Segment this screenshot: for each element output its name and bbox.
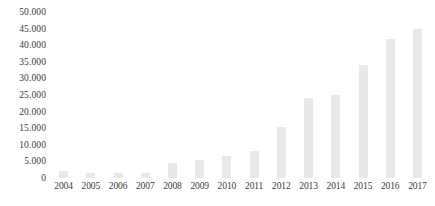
bar-2013[interactable] (304, 98, 313, 178)
bar-2012[interactable] (277, 127, 286, 178)
bar-slot (186, 12, 213, 178)
x-axis-tick-label: 2017 (404, 180, 431, 200)
x-axis-tick-label: 2014 (322, 180, 349, 200)
bar-slot (213, 12, 240, 178)
bar-slot (241, 12, 268, 178)
bar-2010[interactable] (222, 156, 231, 178)
x-axis-tick-label: 2010 (213, 180, 240, 200)
bar-slot (377, 12, 404, 178)
bar-2006[interactable] (114, 173, 123, 178)
bar-slot (104, 12, 131, 178)
bar-2011[interactable] (250, 151, 259, 178)
x-axis-tick-label: 2013 (295, 180, 322, 200)
y-axis: 50.00045.00040.00035.00030.00025.00020.0… (0, 0, 46, 206)
y-axis-tick-label: 35.000 (0, 57, 46, 67)
y-axis-tick-label: 0 (0, 173, 46, 183)
x-axis-tick-label: 2012 (268, 180, 295, 200)
bar-slot (77, 12, 104, 178)
x-axis-tick-label: 2007 (132, 180, 159, 200)
bars-layer (50, 12, 431, 178)
bar-2009[interactable] (195, 160, 204, 178)
bar-2015[interactable] (359, 65, 368, 178)
bar-slot (349, 12, 376, 178)
y-axis-tick-label: 50.000 (0, 7, 46, 17)
bar-chart: 50.00045.00040.00035.00030.00025.00020.0… (0, 0, 435, 206)
y-axis-tick-label: 5.000 (0, 156, 46, 166)
bar-slot (268, 12, 295, 178)
bar-2017[interactable] (413, 29, 422, 178)
bar-2007[interactable] (141, 173, 150, 178)
x-axis-tick-label: 2015 (349, 180, 376, 200)
bar-2005[interactable] (86, 173, 95, 178)
x-axis-tick-label: 2016 (377, 180, 404, 200)
y-axis-tick-label: 10.000 (0, 140, 46, 150)
x-axis-tick-label: 2004 (50, 180, 77, 200)
y-axis-tick-label: 25.000 (0, 90, 46, 100)
x-axis-tick-label: 2006 (104, 180, 131, 200)
bar-slot (132, 12, 159, 178)
bar-slot (159, 12, 186, 178)
y-axis-tick-label: 15.000 (0, 123, 46, 133)
x-axis-tick-label: 2009 (186, 180, 213, 200)
x-axis-tick-label: 2011 (241, 180, 268, 200)
bar-slot (295, 12, 322, 178)
bar-slot (322, 12, 349, 178)
plot-area (50, 12, 431, 178)
y-axis-tick-label: 30.000 (0, 73, 46, 83)
bar-2004[interactable] (59, 171, 68, 178)
bar-2008[interactable] (168, 163, 177, 178)
y-axis-tick-label: 45.000 (0, 24, 46, 34)
x-axis-tick-label: 2005 (77, 180, 104, 200)
bar-slot (50, 12, 77, 178)
y-axis-tick-label: 40.000 (0, 40, 46, 50)
y-axis-tick-label: 20.000 (0, 107, 46, 117)
x-axis: 2004200520062007200820092010201120122013… (50, 180, 431, 200)
bar-2014[interactable] (331, 95, 340, 178)
bar-2016[interactable] (386, 39, 395, 178)
bar-slot (404, 12, 431, 178)
x-axis-tick-label: 2008 (159, 180, 186, 200)
